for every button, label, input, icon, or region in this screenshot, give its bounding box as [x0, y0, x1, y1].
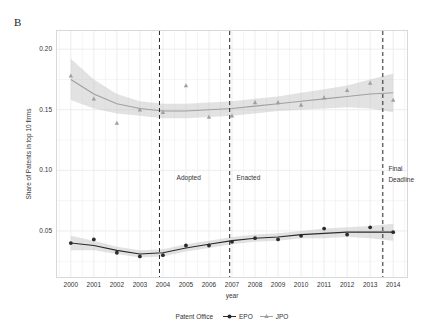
- y-axis-label-wrap: Share of Patents in top 10 firms: [0, 30, 56, 278]
- x-tick-label: 2004: [156, 281, 170, 288]
- legend-item-jpo: JPO: [260, 312, 289, 321]
- data-point-epo: [230, 240, 234, 244]
- x-axis-label: year: [56, 292, 408, 299]
- data-point-epo: [276, 238, 280, 242]
- data-point-epo: [368, 225, 372, 229]
- data-point-epo: [69, 241, 73, 245]
- data-point-epo: [207, 244, 211, 248]
- legend-label: JPO: [276, 313, 289, 320]
- legend-label: EPO: [239, 313, 253, 320]
- x-tick-label: 2010: [294, 281, 308, 288]
- x-tick-label: 2002: [110, 281, 124, 288]
- annotation-adopted: Adopted: [177, 174, 201, 181]
- annotation-final-deadline-line1: Final: [388, 165, 402, 172]
- x-tick-label: 2008: [248, 281, 262, 288]
- plot-svg: [57, 31, 407, 277]
- plot-area: AdoptedEnactedFinalDeadline: [56, 30, 408, 278]
- data-point-epo: [299, 234, 303, 238]
- x-tick-label: 2000: [64, 281, 78, 288]
- x-tick-label: 2006: [202, 281, 216, 288]
- annotation-final-deadline-line2: Deadline: [388, 176, 414, 183]
- data-point-epo: [138, 255, 142, 259]
- x-axis: 2000200120022003200420052006200720082009…: [56, 279, 408, 293]
- data-point-jpo: [115, 121, 119, 125]
- legend-title: Patent Office: [176, 313, 213, 320]
- data-point-epo: [92, 238, 96, 242]
- data-point-epo: [115, 251, 119, 255]
- x-tick-label: 2014: [386, 281, 400, 288]
- legend-key-filled-circle-icon: [223, 312, 236, 321]
- data-point-epo: [391, 230, 395, 234]
- x-tick-label: 2005: [179, 281, 193, 288]
- panel-label: B: [14, 16, 21, 28]
- x-tick-label: 2009: [271, 281, 285, 288]
- data-point-epo: [184, 244, 188, 248]
- chart-figure: B 0.050.100.150.20 Share of Patents in t…: [0, 0, 428, 333]
- data-point-jpo: [184, 83, 188, 87]
- x-tick-label: 2012: [340, 281, 354, 288]
- legend-item-epo: EPO: [223, 312, 253, 321]
- y-axis-label: Share of Patents in top 10 firms: [25, 108, 32, 199]
- data-point-epo: [345, 233, 349, 237]
- x-tick-label: 2011: [317, 281, 331, 288]
- x-tick-label: 2003: [133, 281, 147, 288]
- data-point-epo: [161, 253, 165, 257]
- legend: Patent Office EPOJPO: [56, 307, 408, 325]
- x-tick-label: 2001: [87, 281, 101, 288]
- data-point-epo: [322, 227, 326, 231]
- x-tick-label: 2013: [363, 281, 377, 288]
- x-tick-label: 2007: [225, 281, 239, 288]
- legend-key-filled-triangle-icon: [260, 312, 273, 321]
- data-point-epo: [253, 236, 257, 240]
- annotation-enacted: Enacted: [236, 174, 260, 181]
